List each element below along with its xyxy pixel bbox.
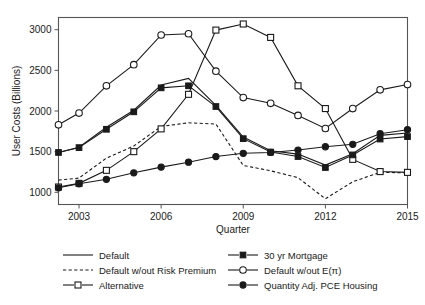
marker-filled-circle (158, 164, 164, 170)
marker-filled-square (186, 83, 192, 89)
marker-open-circle (349, 105, 356, 112)
marker-open-circle (240, 267, 247, 274)
legend-label: Default w/out Risk Premium (99, 265, 216, 276)
legend-label: 30 yr Mortgage (264, 250, 328, 261)
x-tick-label: 2015 (396, 211, 419, 222)
series-path (59, 34, 408, 129)
marker-open-circle (267, 100, 274, 107)
legend-entry[interactable]: 30 yr Mortgage (228, 250, 328, 261)
marker-open-circle (130, 61, 137, 68)
legend-label: Alternative (99, 280, 144, 291)
marker-open-circle (55, 122, 62, 129)
y-tick-label: 2500 (29, 65, 52, 76)
marker-filled-circle (377, 131, 383, 137)
marker-open-circle (404, 81, 411, 88)
y-tick-label: 2000 (29, 106, 52, 117)
legend-label: Quantity Adj. PCE Housing (264, 280, 378, 291)
marker-filled-square (131, 109, 137, 115)
marker-open-circle (322, 125, 329, 132)
data-series (55, 127, 410, 191)
marker-open-circle (185, 30, 192, 37)
marker-filled-circle (76, 181, 82, 187)
marker-open-circle (103, 82, 110, 89)
marker-open-square (405, 169, 411, 175)
marker-open-square (295, 83, 301, 89)
chart-legend: Default30 yr MortgageDefault w/out Risk … (63, 250, 378, 291)
marker-filled-circle (103, 176, 109, 182)
marker-filled-square (56, 150, 62, 156)
marker-filled-circle (404, 127, 410, 133)
chart-figure: 10001500200025003000 2003200620092012201… (0, 0, 425, 305)
y-tick-label: 1000 (29, 187, 52, 198)
marker-open-circle (377, 87, 384, 94)
x-tick-label: 2012 (314, 211, 337, 222)
marker-open-square (240, 21, 246, 27)
marker-filled-circle (185, 159, 191, 165)
legend-entry[interactable]: Quantity Adj. PCE Housing (228, 280, 378, 291)
y-axis-ticks: 10001500200025003000 (29, 24, 58, 198)
user-costs-line-chart: 10001500200025003000 2003200620092012201… (0, 0, 425, 305)
marker-filled-circle (240, 282, 246, 288)
marker-filled-circle (55, 185, 61, 191)
marker-filled-circle (322, 144, 328, 150)
legend-entry[interactable]: Default (63, 250, 129, 261)
marker-filled-square (240, 252, 246, 258)
legend-entry[interactable]: Alternative (63, 280, 144, 291)
x-tick-label: 2006 (150, 211, 173, 222)
marker-open-square (103, 167, 109, 173)
marker-open-square (158, 126, 164, 132)
marker-open-square (377, 169, 383, 175)
marker-open-square (186, 91, 192, 97)
x-axis-title: Quarter (216, 224, 251, 235)
marker-filled-square (240, 136, 246, 142)
legend-entry[interactable]: Default w/out E(π) (228, 265, 341, 276)
y-tick-label: 3000 (29, 24, 52, 35)
marker-filled-circle (213, 153, 219, 159)
x-tick-label: 2009 (232, 211, 255, 222)
marker-filled-square (104, 126, 110, 132)
data-series (55, 30, 411, 131)
marker-filled-square (405, 134, 411, 140)
marker-filled-square (323, 165, 329, 171)
marker-open-square (213, 27, 219, 33)
legend-label: Default w/out E(π) (264, 265, 341, 276)
marker-filled-square (350, 152, 356, 158)
marker-filled-square (213, 104, 219, 110)
marker-open-circle (295, 112, 302, 119)
marker-filled-circle (131, 170, 137, 176)
marker-open-square (75, 282, 81, 288)
marker-filled-square (76, 145, 82, 151)
marker-filled-square (158, 85, 164, 91)
marker-open-circle (213, 68, 220, 75)
marker-open-circle (240, 94, 247, 101)
marker-filled-circle (240, 150, 246, 156)
y-axis-title: User Costs (Billions) (11, 66, 22, 157)
marker-filled-circle (268, 149, 274, 155)
marker-open-circle (76, 110, 83, 117)
marker-open-square (268, 34, 274, 40)
marker-filled-circle (295, 147, 301, 153)
marker-open-square (322, 106, 328, 112)
marker-filled-circle (350, 141, 356, 147)
series-layer (55, 21, 411, 199)
marker-filled-square (295, 154, 301, 160)
x-tick-label: 2003 (68, 211, 91, 222)
y-tick-label: 1500 (29, 146, 52, 157)
marker-open-circle (158, 32, 165, 39)
legend-entry[interactable]: Default w/out Risk Premium (63, 265, 216, 276)
legend-label: Default (99, 250, 129, 261)
marker-open-square (131, 149, 137, 155)
x-axis-ticks: 20032006200920122015 (68, 205, 419, 223)
